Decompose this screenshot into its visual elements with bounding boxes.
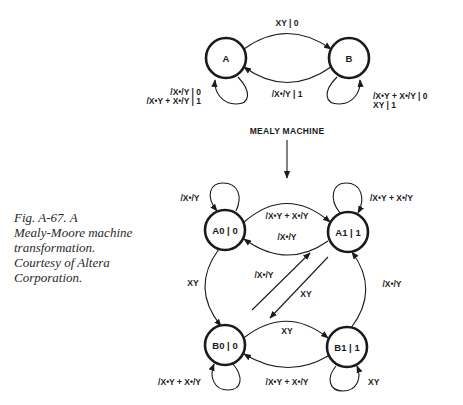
edge-b1-to-a1 bbox=[351, 252, 366, 328]
edge-a0-to-b0 bbox=[205, 249, 221, 326]
label-a1-to-a0: /X•/Y bbox=[277, 232, 296, 242]
label-a1-to-b0: XY bbox=[300, 289, 312, 299]
edge-a1-self bbox=[333, 183, 362, 213]
svg-text:A1 | 1: A1 | 1 bbox=[335, 227, 361, 238]
figure-caption: Fig. A-67. A Mealy-Moore machine transfo… bbox=[14, 210, 174, 285]
label-b0-self: /X•Y + X•/Y bbox=[158, 377, 201, 387]
state-a0: A0 | 0 bbox=[205, 210, 245, 250]
label-b1-to-a1: /X•/Y bbox=[382, 279, 401, 289]
label-b-self-2: XY | 1 bbox=[373, 100, 396, 110]
edge-a0-self bbox=[210, 183, 239, 211]
edge-b0-self bbox=[212, 364, 240, 390]
label-a0-to-a1: /X•Y + X•/Y bbox=[266, 211, 309, 221]
svg-text:A: A bbox=[223, 53, 230, 64]
caption-line: Courtesy of Altera bbox=[14, 255, 174, 270]
moore-machine: /X•/Y /X•Y + X•/Y /X•Y + X•/Y /X•/Y XY /… bbox=[158, 183, 413, 391]
svg-text:B1 | 1: B1 | 1 bbox=[334, 342, 360, 353]
edge-a1-to-b0 bbox=[270, 257, 328, 318]
edge-b1-to-b0 bbox=[244, 354, 328, 368]
state-b0: B0 | 0 bbox=[205, 325, 245, 365]
label-a-to-b: XY | 0 bbox=[275, 18, 298, 28]
mealy-machine-title: MEALY MACHINE bbox=[250, 126, 325, 136]
label-a0-to-b0: XY bbox=[187, 278, 199, 288]
edge-b1-self bbox=[330, 366, 359, 391]
label-a0-self: /X•/Y bbox=[180, 193, 199, 203]
label-a-self-2: /X•Y + X•/Y | 1 bbox=[146, 96, 201, 106]
caption-line: Mealy-Moore machine bbox=[14, 225, 174, 240]
label-b-to-a: /X•/Y | 1 bbox=[272, 89, 303, 99]
state-b: B bbox=[329, 38, 369, 78]
caption-line: Fig. A-67. A bbox=[14, 210, 174, 225]
caption-line: Corporation. bbox=[14, 270, 174, 285]
svg-text:B0 | 0: B0 | 0 bbox=[212, 340, 237, 351]
state-a: A bbox=[206, 38, 246, 78]
label-b0-to-a1: /X•/Y bbox=[254, 270, 273, 280]
edge-b-self bbox=[327, 77, 360, 104]
edge-b-to-a bbox=[244, 67, 331, 83]
edge-a-self bbox=[215, 77, 248, 104]
state-b1: B1 | 1 bbox=[327, 327, 367, 367]
label-b1-self: XY bbox=[368, 377, 380, 387]
state-a1: A1 | 1 bbox=[328, 212, 368, 252]
svg-text:A0 | 0: A0 | 0 bbox=[212, 225, 237, 236]
mealy-machine: XY | 0 /X•/Y | 1 /X•/Y | 0 /X•Y + X•/Y |… bbox=[146, 18, 427, 136]
mealy-moore-diagram: XY | 0 /X•/Y | 1 /X•/Y | 0 /X•Y + X•/Y |… bbox=[0, 0, 463, 405]
svg-text:B: B bbox=[346, 53, 353, 64]
label-b1-to-b0: /X•Y + X•/Y bbox=[266, 377, 309, 387]
edge-a-to-b bbox=[244, 34, 331, 50]
edge-b0-to-a1 bbox=[252, 253, 310, 310]
caption-line: transformation. bbox=[14, 240, 174, 255]
label-b0-to-b1: XY bbox=[281, 326, 293, 336]
label-a1-self: /X•Y + X•/Y bbox=[370, 193, 413, 203]
